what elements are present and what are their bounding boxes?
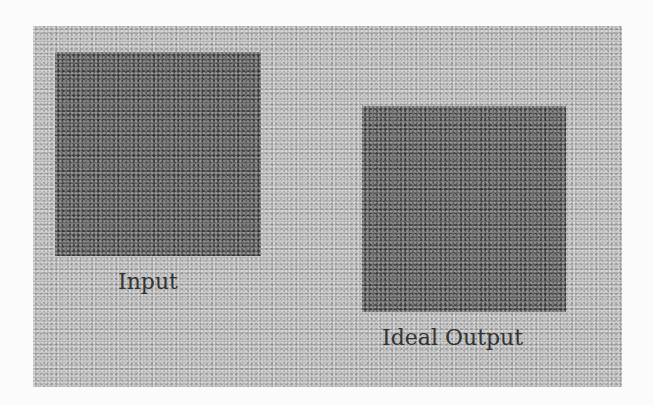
ideal-output-texture-image — [362, 106, 566, 312]
input-texture-image — [55, 52, 261, 256]
input-label: Input — [118, 271, 178, 293]
ideal-output-label: Ideal Output — [382, 327, 523, 349]
